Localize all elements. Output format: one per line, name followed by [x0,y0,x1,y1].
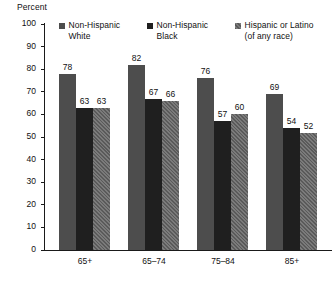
bar-value: 63 [97,96,106,107]
bar-group-85-plus: 69 54 52 [266,24,317,250]
y-tick-label-70: 70 [27,86,36,97]
bar-value: 60 [235,102,244,113]
bar-value: 66 [166,89,175,100]
bar-65-74-non-hispanic-black[interactable]: 67 [145,99,162,250]
bar-group-65-74: 82 67 66 [128,24,179,250]
bar-85plus-non-hispanic-black[interactable]: 54 [283,128,300,250]
y-axis-title: Percent [17,2,47,12]
x-tick-label-75-84: 75–84 [211,256,235,267]
bar-value: 57 [218,109,227,120]
y-tick-label-20: 20 [27,199,36,210]
bar-65-74-non-hispanic-white[interactable]: 82 [128,65,145,250]
bar-chart: Percent 100 90 80 70 60 50 40 30 20 10 0… [0,0,335,286]
bar-value: 76 [201,66,210,77]
plot-area: 78 63 63 82 67 66 76 57 60 69 54 52 [45,24,330,250]
bar-value: 82 [132,53,141,64]
x-tick-label-65-74: 65–74 [142,256,166,267]
y-tick-label-80: 80 [27,63,36,74]
y-tick-label-10: 10 [27,221,36,232]
bar-value: 78 [63,62,72,73]
y-tick-label-90: 90 [27,41,36,52]
bar-65-74-hispanic-latino[interactable]: 66 [162,101,179,250]
bar-85plus-hispanic-latino[interactable]: 52 [300,133,317,251]
legend-swatch-non-hispanic-black-icon [147,23,153,29]
legend-item-non-hispanic-white[interactable]: Non-Hispanic White [59,20,120,41]
y-tick-label-100: 100 [22,18,36,29]
bar-75-84-non-hispanic-black[interactable]: 57 [214,121,231,250]
bar-75-84-non-hispanic-white[interactable]: 76 [197,78,214,250]
legend-item-non-hispanic-black[interactable]: Non-Hispanic Black [147,20,208,41]
y-tick-label-30: 30 [27,176,36,187]
bar-85plus-non-hispanic-white[interactable]: 69 [266,94,283,250]
legend-label-non-hispanic-black: Non-Hispanic Black [157,20,209,41]
y-tick-label-60: 60 [27,108,36,119]
legend-item-hispanic-latino[interactable]: Hispanic or Latino (of any race) [235,20,313,41]
legend-swatch-hispanic-latino-icon [235,23,241,29]
x-tick-label-85-plus: 85+ [285,256,299,267]
bar-75-84-hispanic-latino[interactable]: 60 [231,114,248,250]
legend: Non-Hispanic White Non-Hispanic Black Hi… [59,20,329,46]
y-tick-label-50: 50 [27,131,36,142]
legend-label-non-hispanic-white: Non-Hispanic White [69,20,121,41]
x-axis-line [44,250,332,251]
legend-swatch-non-hispanic-white-icon [59,23,65,29]
bar-65plus-non-hispanic-black[interactable]: 63 [76,108,93,250]
bar-value: 54 [287,116,296,127]
bar-value: 63 [80,96,89,107]
x-tick-label-65-plus: 65+ [78,256,92,267]
bar-65plus-hispanic-latino[interactable]: 63 [93,108,110,250]
legend-label-hispanic-latino: Hispanic or Latino (of any race) [245,20,314,41]
bar-group-75-84: 76 57 60 [197,24,248,250]
y-tick-label-40: 40 [27,154,36,165]
bar-value: 67 [149,87,158,98]
bar-value: 52 [304,121,313,132]
bar-group-65-plus: 78 63 63 [59,24,110,250]
y-tick-label-0: 0 [31,244,36,255]
bar-value: 69 [270,82,279,93]
bar-65plus-non-hispanic-white[interactable]: 78 [59,74,76,250]
